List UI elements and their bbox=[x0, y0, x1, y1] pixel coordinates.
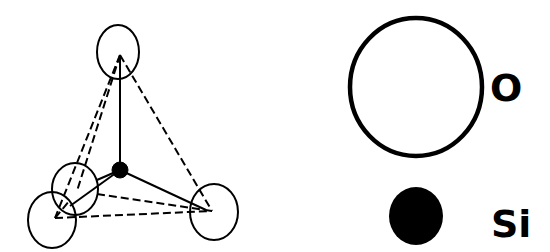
oxygen-atom-back-left bbox=[52, 163, 98, 215]
legend-label-oxygen: O bbox=[490, 66, 522, 110]
si-o-bonds bbox=[70, 56, 206, 210]
legend-item-oxygen: O bbox=[350, 18, 522, 156]
tetrahedron bbox=[28, 25, 238, 248]
edge-top-right bbox=[120, 55, 212, 211]
silicon-atom bbox=[112, 162, 128, 178]
legend-label-silicon: Si bbox=[491, 202, 531, 246]
silica-tetrahedron-diagram: O Si bbox=[0, 0, 550, 252]
legend-item-silicon: Si bbox=[389, 187, 531, 246]
tetrahedron-edges bbox=[55, 55, 212, 218]
oxygen-atom-right bbox=[190, 184, 238, 240]
legend: O Si bbox=[350, 18, 531, 246]
oxygen-atom-front-left bbox=[28, 192, 76, 248]
edge-front-left-back-left bbox=[55, 200, 70, 218]
oxygen-atom-top bbox=[97, 25, 139, 79]
filled-circle-icon bbox=[389, 187, 443, 245]
open-circle-icon bbox=[350, 18, 482, 156]
